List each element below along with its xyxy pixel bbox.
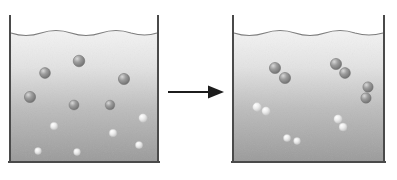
particle <box>279 72 290 83</box>
particle <box>361 93 371 103</box>
particle <box>339 123 347 131</box>
particle <box>105 100 115 110</box>
particle <box>109 129 117 137</box>
right-beaker-walls <box>232 16 385 162</box>
left-beaker-walls <box>9 16 159 162</box>
particle <box>330 58 341 69</box>
particle <box>262 107 270 115</box>
right-liquid <box>234 31 383 162</box>
particle-pair <box>334 115 347 131</box>
left-meniscus <box>11 31 157 36</box>
particle-pair <box>269 62 290 83</box>
particle <box>283 134 290 141</box>
particle-pair <box>361 82 373 103</box>
particle <box>334 115 342 123</box>
left-liquid <box>11 31 157 162</box>
particle <box>340 68 351 79</box>
right-particle-group <box>253 58 374 144</box>
reaction-arrow <box>168 83 228 101</box>
particle <box>294 138 301 145</box>
particle-pair <box>253 103 271 116</box>
particle <box>69 100 79 110</box>
particle <box>73 55 85 67</box>
particle <box>363 82 373 92</box>
particle-pair <box>330 58 350 78</box>
particle <box>135 141 142 148</box>
particle <box>118 73 129 84</box>
arrow-head-icon <box>208 86 224 99</box>
particle <box>35 148 42 155</box>
particle-pair <box>283 134 300 144</box>
right-meniscus <box>234 31 383 36</box>
particle <box>50 122 58 130</box>
particle <box>253 103 262 112</box>
particle <box>24 91 35 102</box>
figure-canvas <box>0 0 397 180</box>
particle <box>139 114 147 122</box>
left-particle-group <box>24 55 147 155</box>
particle <box>269 62 280 73</box>
particle <box>40 68 51 79</box>
particle <box>74 149 81 156</box>
